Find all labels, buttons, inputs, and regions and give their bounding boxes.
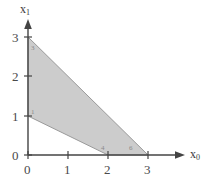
plot-canvas (0, 0, 213, 186)
x-axis-label-sub: 0 (196, 153, 200, 162)
y-axis-arrowhead (24, 19, 32, 29)
y-tick-label-1: 1 (12, 110, 19, 123)
edge-label-6: 6 (129, 145, 133, 152)
y-tick-label-0: 0 (12, 149, 19, 162)
edge-label-4: 4 (101, 145, 105, 152)
x-tick-label-0: 0 (24, 163, 31, 176)
y-axis-label-sub: 1 (26, 8, 30, 17)
y-tick-label-2: 2 (12, 70, 19, 83)
feasible-region-polygon (28, 37, 148, 155)
edge-label-1: 1 (31, 109, 35, 116)
x-tick-label-1: 1 (64, 163, 71, 176)
y-tick-label-3: 3 (12, 31, 19, 44)
plot-figure: 3 2 1 0 0 1 2 3 x1 x0 3 1 4 6 (0, 0, 213, 186)
x-axis-label: x0 (190, 148, 200, 160)
x-tick-label-3: 3 (144, 163, 151, 176)
x-tick-label-2: 2 (104, 163, 111, 176)
y-axis-label: x1 (20, 3, 30, 15)
x-axis-arrowhead (175, 151, 185, 159)
edge-label-3: 3 (31, 45, 35, 52)
